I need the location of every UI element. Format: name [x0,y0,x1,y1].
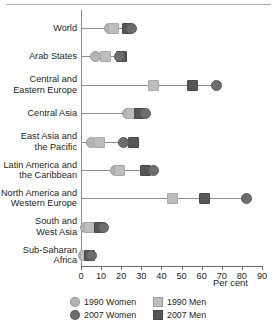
data-point-1990-men [100,51,111,62]
legend-item[interactable]: 2007 Women [70,308,136,321]
row-label: East Asia and the Pacific [0,131,77,152]
data-point-1990-men [167,193,178,204]
circle-swatch-icon [70,297,80,307]
row-label: Central and Eastern Europe [0,74,77,95]
data-point-2007-men [199,193,210,204]
x-tick [262,266,263,270]
chart-row: Central Asia [0,99,277,127]
legend-label: 2007 Men [167,310,206,320]
row-label: Arab States [0,51,77,62]
chart-row: Latin America and the Caribbean [0,156,277,184]
row-label: World [0,23,77,34]
chart-row: World [0,14,277,42]
legend-row: 1990 Women1990 Men [70,295,245,308]
x-tick-label: 90 [250,271,274,281]
data-point-2007-women [86,250,97,261]
data-point-1990-men [108,23,119,34]
x-tick [182,266,183,270]
legend-row: 2007 Women2007 Men [70,308,245,321]
data-point-2007-women [98,222,109,233]
legend-label: 1990 Men [167,297,206,307]
circle-swatch-icon [70,310,80,320]
data-point-2007-women [211,80,222,91]
data-point-1990-men [114,165,125,176]
data-point-2007-men [187,80,198,91]
x-axis-title: Per cent [213,277,248,288]
row-label: South and West Asia [0,216,77,237]
plot-area: WorldArab StatesCentral and Eastern Euro… [0,8,277,266]
legend-item[interactable]: 1990 Women [70,295,136,308]
chart-row: North America and Western Europe [0,184,277,212]
chart-legend: 1990 Women1990 Men2007 Women2007 Men [70,295,245,321]
x-tick [121,266,122,270]
x-tick [202,266,203,270]
chart-row: East Asia and the Pacific [0,128,277,156]
x-tick [81,266,82,270]
x-tick [222,266,223,270]
row-label: Central Asia [0,108,77,119]
row-label: Sub-Saharan Africa [0,245,77,266]
data-point-1990-men [148,80,159,91]
data-point-2007-women [118,137,129,148]
chart-row: Sub-Saharan Africa [0,241,277,269]
top-divider [6,4,271,5]
x-tick [242,266,243,270]
data-point-2007-women [241,193,252,204]
chart-page: WorldArab StatesCentral and Eastern Euro… [0,0,277,325]
chart-row: South and West Asia [0,213,277,241]
chart-row: Central and Eastern Europe [0,71,277,99]
legend-label: 2007 Women [84,310,136,320]
x-tick [141,266,142,270]
row-connector-line [81,198,246,199]
square-swatch-icon [153,297,163,307]
legend-label: 1990 Women [84,297,136,307]
square-swatch-icon [153,310,163,320]
row-label: Latin America and the Caribbean [0,160,77,181]
data-point-2007-women [126,23,137,34]
chart-row: Arab States [0,42,277,70]
legend-item[interactable]: 2007 Men [153,308,206,321]
data-point-2007-men [128,137,139,148]
data-point-2007-women [140,108,151,119]
data-point-1990-men [94,137,105,148]
row-label: North America and Western Europe [0,188,77,209]
x-tick [161,266,162,270]
data-point-2007-women [148,165,159,176]
legend-item[interactable]: 1990 Men [153,295,206,308]
x-tick [101,266,102,270]
